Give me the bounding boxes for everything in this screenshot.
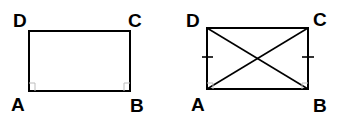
vertex-label-b: B — [130, 95, 144, 116]
vertex-label-d: D — [186, 10, 200, 31]
vertex-label-a: A — [11, 94, 25, 115]
vertex-label-a: A — [191, 94, 205, 115]
vertex-label-c: C — [128, 10, 142, 31]
diagram-canvas: D C A B D C A B — [0, 0, 339, 120]
rectangle-outline — [29, 31, 130, 91]
figure-rectangle-with-diagonals: D C A B — [186, 9, 327, 116]
vertex-label-c: C — [313, 9, 327, 30]
figure-rectangle: D C A B — [11, 10, 144, 116]
vertex-label-d: D — [13, 10, 27, 31]
vertex-label-b: B — [313, 95, 327, 116]
